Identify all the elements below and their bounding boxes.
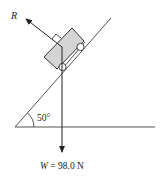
label-angle: 50°: [37, 113, 51, 123]
weight-equals: =: [50, 161, 58, 171]
label-weight: W = 98.0 N: [40, 161, 84, 171]
wheel-front: [77, 43, 84, 50]
weight-value: 98.0 N: [58, 161, 84, 171]
free-body-diagram: R 50° W = 98.0 N: [0, 0, 162, 178]
weight-symbol: W: [40, 161, 49, 171]
angle-arc: [28, 113, 35, 127]
normal-force-arrow: [26, 19, 62, 47]
label-normal-force: R: [10, 10, 17, 21]
incline-line: [15, 18, 111, 127]
right-angle-marker: [52, 34, 61, 39]
